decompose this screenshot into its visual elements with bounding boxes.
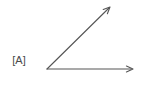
angle-rays-graphic (0, 0, 153, 107)
angle-diagram-canvas: [A] (0, 0, 153, 107)
diagonal-ray-line (47, 8, 109, 69)
